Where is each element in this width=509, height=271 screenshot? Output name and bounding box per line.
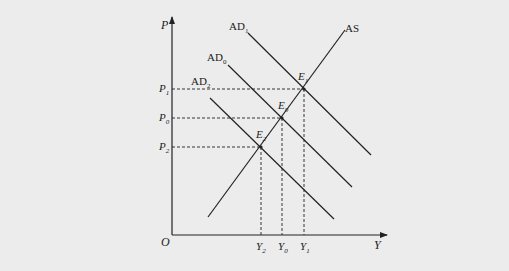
ad1-label: AD1 bbox=[229, 20, 249, 35]
p0-label: P0 bbox=[158, 111, 170, 126]
x-axis-label: Y bbox=[374, 238, 382, 252]
curve-labels: AS AD1 AD0 AD2 bbox=[191, 20, 359, 90]
y1-label: Y1 bbox=[300, 240, 310, 255]
p2-label: P2 bbox=[158, 140, 170, 155]
y0-label: Y0 bbox=[278, 240, 288, 255]
curves bbox=[208, 30, 371, 219]
p1-label: P1 bbox=[158, 82, 169, 97]
ad2-label: AD2 bbox=[191, 75, 211, 90]
ad0-label: AD0 bbox=[207, 51, 227, 66]
equilibrium-points bbox=[259, 87, 305, 148]
as-label: AS bbox=[345, 22, 359, 34]
origin-label: O bbox=[161, 235, 170, 249]
e1-point bbox=[302, 87, 305, 90]
equilibrium-labels: E1 E0 E2 bbox=[255, 70, 308, 143]
ad-as-diagram: P Y O AS AD1 AD0 AD2 E1 E0 E2 P1 bbox=[0, 0, 509, 271]
output-tick-labels: Y2 Y0 Y1 bbox=[256, 240, 310, 255]
e0-label: E0 bbox=[277, 99, 289, 114]
y2-label: Y2 bbox=[256, 240, 266, 255]
price-tick-labels: P1 P0 P2 bbox=[158, 82, 170, 155]
axes: P Y O bbox=[160, 17, 387, 252]
e0-point bbox=[280, 116, 283, 119]
ad2-curve bbox=[210, 98, 334, 219]
as-curve bbox=[208, 30, 345, 217]
y-axis-label: P bbox=[160, 18, 169, 32]
e2-point bbox=[259, 145, 262, 148]
ad0-curve bbox=[228, 65, 352, 187]
e2-label: E2 bbox=[255, 128, 267, 143]
